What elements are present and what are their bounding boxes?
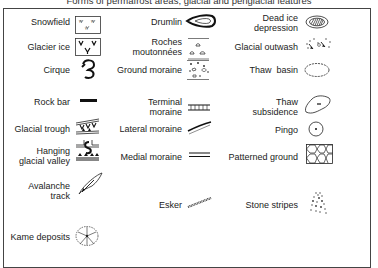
- hanging-glacial-valley-icon: [76, 139, 100, 163]
- legend-item-esker: Esker: [159, 200, 182, 210]
- roches-moutonnees-icon: [188, 38, 210, 60]
- legend-label: Patterned ground: [228, 152, 298, 162]
- medial-moraine-icon: [188, 151, 212, 159]
- legend-label: Avalanchetrack: [28, 181, 70, 201]
- legend-label: Glacial trough: [14, 124, 70, 134]
- legend-label: Terminalmoraine: [148, 97, 182, 117]
- legend-item-kame-deposits: Kame deposits: [10, 232, 70, 242]
- legend-item-cirque: Cirque: [43, 65, 70, 75]
- lateral-moraine-icon: [188, 120, 212, 136]
- legend-label: Dead icedepression: [254, 13, 298, 33]
- snowfield-icon: ᵞᵞᵞᵞᵞᵞ: [75, 16, 101, 34]
- legend-item-terminal-moraine: Terminalmoraine: [148, 97, 182, 117]
- pingo-icon: [308, 121, 324, 137]
- legend-item-thaw-basin: Thaw basin: [249, 65, 298, 75]
- legend-label: Medial moraine: [120, 152, 182, 162]
- legend-label: Esker: [159, 200, 182, 210]
- legend-item-rock-bar: Rock bar: [34, 97, 70, 107]
- legend-item-glacial-trough: Glacial trough: [14, 124, 70, 134]
- legend-label: Snowfield: [31, 17, 70, 27]
- legend-label: Thaw basin: [249, 65, 298, 75]
- legend-item-avalanche-track: Avalanchetrack: [28, 181, 70, 201]
- legend-label: Rock bar: [34, 97, 70, 107]
- legend-title: Forms of permafrost areas, glacial and p…: [0, 0, 378, 6]
- legend-label: Hangingglacial valley: [19, 146, 70, 166]
- ground-moraine-icon: [187, 60, 211, 80]
- glacial-trough-icon: [76, 118, 100, 136]
- legend-item-drumlin: Drumlin: [151, 17, 182, 27]
- thaw-basin-icon: [304, 62, 330, 78]
- legend-item-dead-ice-depression: Dead icedepression: [254, 13, 298, 33]
- rock-bar-icon: [80, 99, 98, 103]
- glacial-outwash-icon: [304, 36, 332, 54]
- legend-item-thaw-subsidence: Thawsubsidence: [252, 97, 298, 117]
- legend-item-ground-moraine: Ground moraine: [117, 65, 182, 75]
- cirque-icon: [81, 58, 97, 80]
- legend-item-medial-moraine: Medial moraine: [120, 152, 182, 162]
- drumlin-icon: [186, 14, 216, 28]
- legend-label: Glacial outwash: [234, 42, 298, 52]
- legend-item-patterned-ground: Patterned ground: [228, 152, 298, 162]
- legend-label: Thawsubsidence: [252, 97, 298, 117]
- esker-icon: [187, 197, 213, 209]
- legend-label: Kame deposits: [10, 232, 70, 242]
- legend-label: Glacier ice: [27, 42, 70, 52]
- legend-item-hanging-glacial-valley: Hangingglacial valley: [19, 146, 70, 166]
- legend-label: Lateral moraine: [119, 124, 182, 134]
- legend-item-roches-moutonnees: Rochesmoutonnées: [132, 37, 182, 57]
- kame-deposits-icon: [74, 225, 100, 247]
- stone-stripes-icon: [308, 191, 330, 215]
- thaw-subsidence-icon: [304, 94, 332, 116]
- legend-label: Ground moraine: [117, 65, 182, 75]
- legend-label: Rochesmoutonnées: [132, 37, 182, 57]
- legend-label: Pingo: [275, 125, 298, 135]
- legend-item-stone-stripes: Stone stripes: [245, 200, 298, 210]
- dead-ice-depression-icon: [305, 15, 329, 29]
- legend-item-snowfield: Snowfield: [31, 17, 70, 27]
- glacier-ice-icon: [75, 38, 101, 56]
- patterned-ground-icon: [306, 144, 334, 164]
- avalanche-track-icon: [76, 172, 104, 202]
- legend-item-lateral-moraine: Lateral moraine: [119, 124, 182, 134]
- terminal-moraine-icon: [188, 104, 212, 112]
- legend-label: Drumlin: [151, 17, 182, 27]
- legend-item-pingo: Pingo: [275, 125, 298, 135]
- legend-label: Cirque: [43, 65, 70, 75]
- legend-item-glacial-outwash: Glacial outwash: [234, 42, 298, 52]
- legend-label: Stone stripes: [245, 200, 298, 210]
- legend-item-glacier-ice: Glacier ice: [27, 42, 70, 52]
